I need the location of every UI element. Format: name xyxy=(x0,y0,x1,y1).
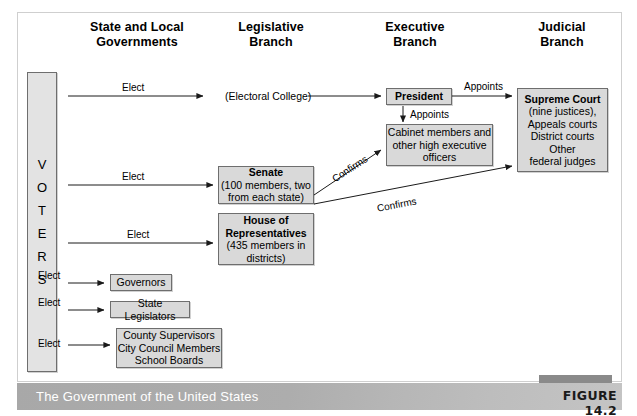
edge-label-appoints-supreme-court: Appoints xyxy=(464,81,503,92)
senate-line3: from each state) xyxy=(228,191,304,204)
connector-lines xyxy=(0,0,637,416)
house-line3: (435 members in xyxy=(227,239,306,252)
house-title-line2: Representatives xyxy=(225,227,306,240)
edge-label-elect-local-offices: Elect xyxy=(38,338,60,349)
local-offices-box: County Supervisors City Council Members … xyxy=(116,328,222,368)
supreme-court-title: Supreme Court xyxy=(525,93,601,106)
state-legislators-box: State Legislators xyxy=(110,301,190,318)
edge-label-elect-senate: Elect xyxy=(122,171,144,182)
president-label: President xyxy=(395,90,443,103)
governors-label: Governors xyxy=(116,276,165,289)
supreme-court-line2: (nine justices), xyxy=(529,105,597,118)
supreme-court-line6: federal judges xyxy=(530,155,596,168)
president-box: President xyxy=(386,88,452,105)
edge-label-elect-electoral-college: Elect xyxy=(122,82,144,93)
local-line3: School Boards xyxy=(135,354,203,367)
edge-label-elect-state-legislators: Elect xyxy=(38,297,60,308)
electoral-college-label: (Electoral College) xyxy=(225,90,311,102)
state-legislators-label: State Legislators xyxy=(111,297,189,322)
senate-box: Senate (100 members, two from each state… xyxy=(218,166,314,204)
cabinet-line2: other high executive xyxy=(393,139,487,152)
figure-government-of-the-united-states: State and Local Governments Legislative … xyxy=(0,0,637,416)
supreme-court-box: Supreme Court (nine justices), Appeals c… xyxy=(517,88,608,172)
figure-label: FIGURE 14.2 xyxy=(531,388,617,416)
senate-line2: (100 members, two xyxy=(221,179,311,192)
governors-box: Governors xyxy=(110,274,172,291)
figure-caption: The Government of the United States xyxy=(36,389,258,404)
cabinet-line3: officers xyxy=(423,151,457,164)
supreme-court-line4: District courts xyxy=(531,130,595,143)
edge-label-elect-house: Elect xyxy=(127,229,149,240)
local-line1: County Supervisors xyxy=(123,329,215,342)
house-line4: districts) xyxy=(246,252,285,265)
cabinet-line1: Cabinet members and xyxy=(388,126,491,139)
local-line2: City Council Members xyxy=(118,342,221,355)
cabinet-box: Cabinet members and other high executive… xyxy=(386,124,493,166)
house-title-line1: House of xyxy=(244,214,289,227)
edge-label-elect-governors: Elect xyxy=(38,270,60,281)
house-of-representatives-box: House of Representatives (435 members in… xyxy=(218,213,314,265)
figure-label-tab xyxy=(539,375,612,383)
edge-label-appoints-cabinet: Appoints xyxy=(410,109,449,120)
supreme-court-line5: Other xyxy=(549,143,575,156)
senate-title: Senate xyxy=(249,166,283,179)
supreme-court-line3: Appeals courts xyxy=(528,118,597,131)
